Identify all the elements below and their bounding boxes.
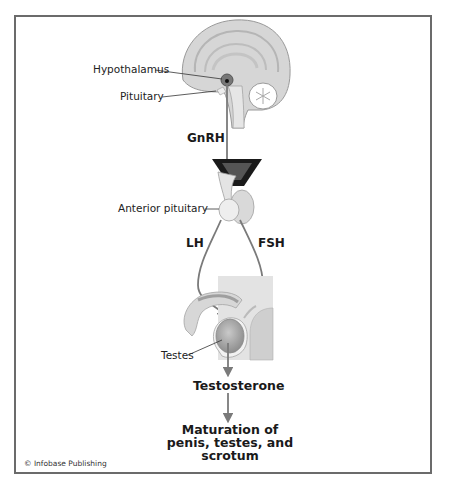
gnrh-label: GnRH	[187, 131, 225, 145]
brain-illustration	[182, 20, 290, 128]
pituitary-illustration	[212, 159, 262, 224]
copyright-notice: © Infobase Publishing	[24, 459, 107, 468]
maturation-outcome-text: Maturation of penis, testes, and scrotum	[160, 423, 300, 462]
anterior-pituitary-label: Anterior pituitary	[118, 202, 208, 214]
testes-label: Testes	[161, 349, 194, 361]
testosterone-label: Testosterone	[193, 378, 284, 393]
pituitary-leader	[162, 91, 216, 97]
diagram-artwork	[0, 0, 449, 492]
outcome-line-3: scrotum	[160, 449, 300, 462]
hypothalamus-label: Hypothalamus	[93, 63, 169, 75]
pituitary-label: Pituitary	[120, 90, 164, 102]
fsh-label: FSH	[258, 236, 285, 250]
lh-label: LH	[186, 236, 204, 250]
